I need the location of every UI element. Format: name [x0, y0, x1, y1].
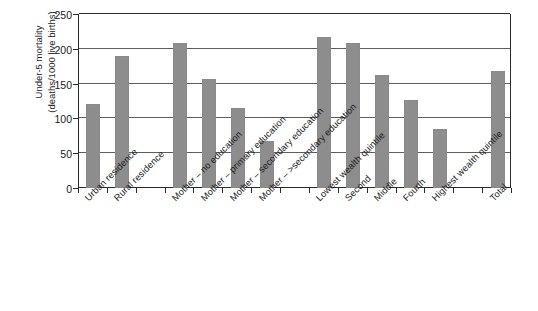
y-tick-label-250: 250 — [36, 9, 72, 21]
x-tick-mark — [136, 188, 137, 193]
bar — [404, 100, 418, 188]
y-tick-label-50: 50 — [36, 148, 72, 160]
x-tick-mark — [396, 188, 397, 193]
gridline-150 — [79, 83, 510, 84]
x-tick-mark — [107, 188, 108, 193]
x-tick-mark — [511, 188, 512, 193]
y-tick-label-200: 200 — [36, 44, 72, 56]
x-tick-mark — [367, 188, 368, 193]
x-tick-mark — [280, 188, 281, 193]
bar — [86, 104, 100, 188]
x-tick-mark — [78, 188, 79, 193]
chart-figure: Under-5 mortality (deaths/1000 live birt… — [0, 0, 538, 311]
x-tick-mark — [453, 188, 454, 193]
bar — [173, 43, 187, 188]
x-tick-mark — [424, 188, 425, 193]
x-tick-mark — [309, 188, 310, 193]
y-tick-label-100: 100 — [36, 113, 72, 125]
x-tick-mark — [193, 188, 194, 193]
x-tick-mark — [338, 188, 339, 193]
gridline-200 — [79, 48, 510, 49]
x-tick-mark — [251, 188, 252, 193]
gridline-100 — [79, 117, 510, 118]
y-tick-label-150: 150 — [36, 79, 72, 91]
x-tick-mark — [482, 188, 483, 193]
x-tick-mark — [222, 188, 223, 193]
y-tick-label-0: 0 — [36, 183, 72, 195]
gridline-250 — [79, 13, 510, 14]
x-tick-mark — [165, 188, 166, 193]
bar — [433, 129, 447, 188]
